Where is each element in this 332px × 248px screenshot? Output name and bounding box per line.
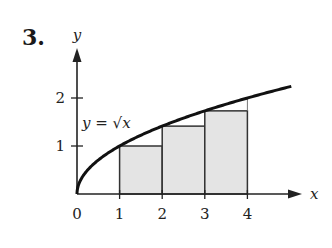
x-axis-label: x [310,185,319,203]
y-tick-label: 1 [55,137,65,155]
riemann-rectangle [205,111,248,194]
riemann-rectangle [120,146,163,194]
y-axis-label: y [72,26,82,44]
y-tick-label: 2 [55,89,65,107]
riemann-rectangles [120,111,248,194]
x-tick-label: 3 [200,205,210,223]
x-axis-arrow-icon [288,190,302,199]
sqrt-plot: 0123412xyy = √x [0,0,332,248]
x-tick-label: 2 [157,205,167,223]
x-tick-label: 1 [115,205,125,223]
curve-label: y = √x [81,114,131,132]
x-tick-label: 4 [243,205,253,223]
x-tick-label: 0 [72,205,82,223]
y-axis-arrow-icon [73,48,82,62]
riemann-rectangle [162,126,205,194]
